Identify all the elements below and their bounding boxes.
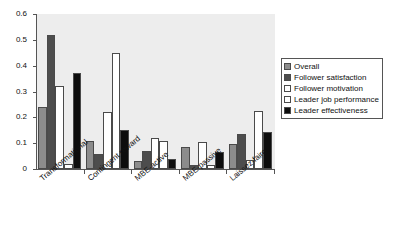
legend-item: Follower satisfaction (284, 72, 379, 83)
x-tick-mark (131, 170, 132, 174)
legend-swatch-icon (284, 74, 291, 81)
y-tick-label: 0.4 (16, 62, 27, 70)
legend-item: Leader job performance (284, 94, 379, 105)
legend-label: Follower motivation (294, 84, 363, 93)
y-tick-label: 0 (23, 165, 27, 173)
y-axis: 00.10.20.30.40.50.6 (0, 0, 33, 180)
y-tick-label: 0.5 (16, 36, 27, 44)
bar (229, 144, 238, 169)
legend-item: Overall (284, 61, 379, 72)
bar-chart: 00.10.20.30.40.50.6 TransformationalCont… (0, 0, 401, 235)
legend-label: Follower satisfaction (294, 73, 366, 82)
x-tick-mark (84, 170, 85, 174)
y-tick-label: 0.3 (16, 88, 27, 96)
y-tick-label: 0.1 (16, 139, 27, 147)
legend-label: Leader effectiveness (294, 106, 368, 115)
legend: OverallFollower satisfactionFollower mot… (281, 58, 383, 119)
legend-label: Leader job performance (294, 95, 379, 104)
bar (207, 165, 216, 169)
bar (168, 159, 177, 169)
legend-swatch-icon (284, 96, 291, 103)
bar (47, 35, 56, 169)
x-tick-mark (226, 170, 227, 174)
legend-item: Follower motivation (284, 83, 379, 94)
x-tick-mark (274, 170, 275, 174)
x-tick-mark (179, 170, 180, 174)
legend-swatch-icon (284, 85, 291, 92)
bar-group (229, 14, 272, 169)
bar (38, 107, 47, 169)
legend-swatch-icon (284, 63, 291, 70)
bar (181, 147, 190, 169)
legend-item: Leader effectiveness (284, 105, 379, 116)
y-tick-label: 0.6 (16, 10, 27, 18)
legend-label: Overall (294, 62, 319, 71)
bar-group (134, 14, 177, 169)
legend-swatch-icon (284, 107, 291, 114)
y-tick-label: 0.2 (16, 113, 27, 121)
